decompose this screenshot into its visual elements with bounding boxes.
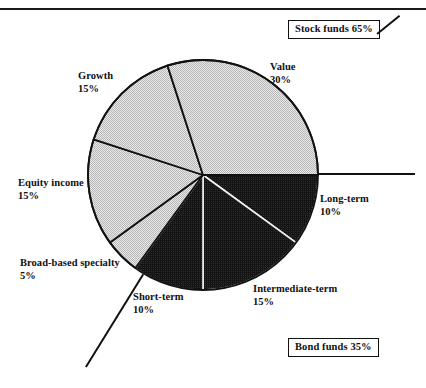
label-equity-income-name: Equity income xyxy=(18,177,84,188)
pie-chart xyxy=(87,59,319,291)
label-equity-income-percent: 15% xyxy=(18,189,84,202)
label-value-name: Value xyxy=(270,61,296,72)
label-short-term-name: Short-term xyxy=(133,291,184,302)
label-value-percent: 30% xyxy=(270,73,296,86)
label-long-term-name: Long-term xyxy=(320,193,369,204)
label-intermediate-term-percent: 15% xyxy=(253,295,337,308)
label-growth-percent: 15% xyxy=(78,82,113,95)
label-intermediate-term-name: Intermediate-term xyxy=(253,283,337,294)
chart-page: Stock funds 65% Bond funds 35% Val xyxy=(0,0,426,388)
label-growth: Growth 15% xyxy=(78,69,113,96)
label-equity-income: Equity income 15% xyxy=(18,176,84,203)
label-broad-based-specialty-name: Broad-based specialty xyxy=(20,257,120,268)
pie-slices-group xyxy=(88,60,318,290)
stock-funds-leader-line xyxy=(376,15,400,35)
label-short-term: Short-term 10% xyxy=(133,290,184,317)
label-broad-based-specialty-percent: 5% xyxy=(20,269,120,282)
label-broad-based-specialty: Broad-based specialty 5% xyxy=(20,256,120,283)
label-long-term-percent: 10% xyxy=(320,205,369,218)
bond-funds-callout: Bond funds 35% xyxy=(288,338,379,357)
stock-funds-callout: Stock funds 65% xyxy=(288,20,380,39)
top-divider-rule xyxy=(0,8,426,10)
label-growth-name: Growth xyxy=(78,70,113,81)
label-short-term-percent: 10% xyxy=(133,303,184,316)
label-long-term: Long-term 10% xyxy=(320,192,369,219)
label-intermediate-term: Intermediate-term 15% xyxy=(253,282,337,309)
pie-chart-svg xyxy=(87,59,319,291)
label-value: Value 30% xyxy=(270,60,296,87)
